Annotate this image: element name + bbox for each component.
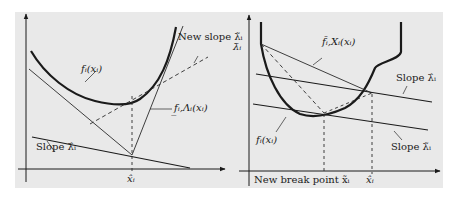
right-slopetilde-leader (394, 131, 402, 140)
left-slope-label: Slope λ̂ᵢ (36, 142, 76, 152)
right-xhat-tick-label: x̂ᵢ (366, 175, 374, 185)
right-upper-bound-label: f̄ᵢ,Xᵢ(xᵢ) (322, 37, 355, 47)
right-upper-line (261, 44, 372, 93)
figure-canvas (0, 0, 455, 198)
right-new-breakpoint-label: New break point x̃ᵢ (254, 175, 350, 185)
right-slope-hat-label: Slope λ̂ᵢ (396, 73, 436, 83)
left-function-curve (31, 27, 176, 105)
left-newslope-leader (194, 56, 198, 63)
left-xhat-tick-label: x̂ᵢ (127, 174, 135, 184)
right-dashed-right (324, 93, 372, 113)
left-lower-bound-label: f̲ᵢ,Λᵢ(xᵢ) (174, 103, 208, 113)
right-upperbound-leader (313, 58, 322, 65)
right-f-leader (276, 117, 286, 132)
right-slope-tilde-line (253, 104, 428, 130)
left-function-label: fᵢ(xᵢ) (81, 64, 102, 74)
right-function-label: fᵢ(xᵢ) (256, 135, 277, 145)
right-slope-tilde-label: Slope λ̃ᵢ (391, 142, 431, 152)
left-lower-line-2 (132, 26, 183, 155)
right-lambda-bar-label: λ̄ᵢ (233, 42, 241, 52)
right-slopehat-leader (403, 86, 407, 94)
